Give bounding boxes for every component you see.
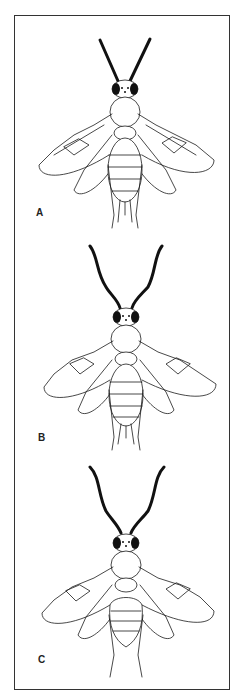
panel-label-a: A — [36, 207, 43, 218]
panel-a: A — [14, 15, 230, 232]
panel-label-c: C — [38, 654, 45, 665]
panel-c: C — [14, 455, 230, 690]
wasp-illustration-c — [14, 455, 230, 690]
panel-label-b: B — [38, 432, 45, 443]
panel-b: B — [14, 232, 230, 455]
wasp-illustration-b — [14, 232, 230, 455]
wasp-illustration-a — [14, 15, 230, 232]
